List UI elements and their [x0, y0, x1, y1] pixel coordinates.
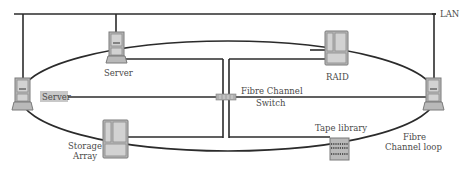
storage-label-line2: Array	[72, 151, 97, 161]
raid-device[interactable]	[325, 31, 348, 65]
raid-label: RAID	[326, 72, 349, 82]
san-diagram: Server RAID Server Fibre Channel Switch	[0, 0, 468, 169]
storage-label-line1: Storage	[68, 141, 102, 151]
storage-array[interactable]	[103, 120, 128, 158]
loop-label-line1: Fibre	[403, 132, 426, 142]
switch-label-line1: Fibre Channel	[241, 86, 303, 96]
fibre-channel-switch[interactable]	[216, 94, 236, 100]
switch-label-line2: Switch	[256, 98, 286, 108]
server-left-label: Server	[42, 92, 72, 102]
lan-label: LAN	[440, 9, 460, 19]
server-left[interactable]	[12, 78, 33, 110]
server-top-label: Server	[104, 68, 134, 78]
server-top[interactable]	[106, 32, 127, 63]
tape-library-label: Tape library	[315, 123, 367, 133]
loop-label-line2: Channel loop	[385, 142, 442, 152]
server-right[interactable]	[423, 78, 444, 110]
tape-library[interactable]	[330, 138, 349, 160]
